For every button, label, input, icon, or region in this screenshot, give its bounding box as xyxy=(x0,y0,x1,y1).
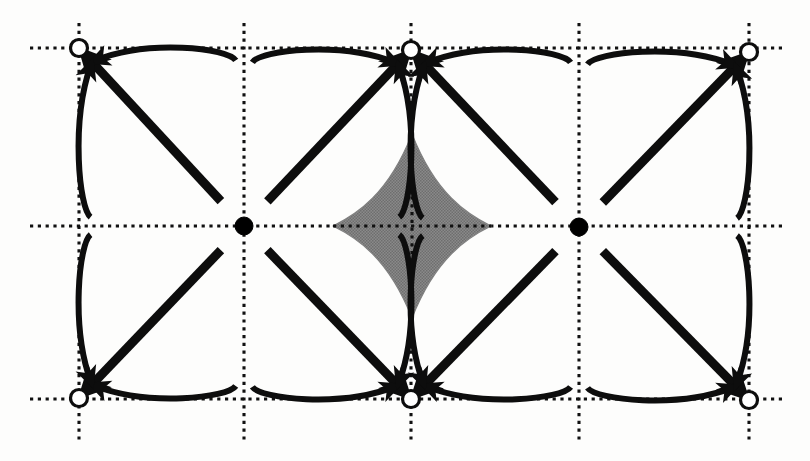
phase-portrait-canvas xyxy=(0,0,810,461)
lattice-node-open-sink-tr xyxy=(741,44,758,61)
lattice-node-filled-source-r xyxy=(570,218,588,236)
lattice-node-open-sink-bm xyxy=(403,391,420,408)
lattice-node-filled-source-l xyxy=(235,217,253,235)
lattice-node-open-sink-bl xyxy=(71,390,88,407)
lattice-node-open-sink-tm xyxy=(403,42,420,59)
phase-portrait-figure: Periodic lattice phase portrait with sou… xyxy=(0,0,810,461)
lattice-node-open-sink-tl xyxy=(71,40,88,57)
lattice-node-open-sink-br xyxy=(741,392,758,409)
